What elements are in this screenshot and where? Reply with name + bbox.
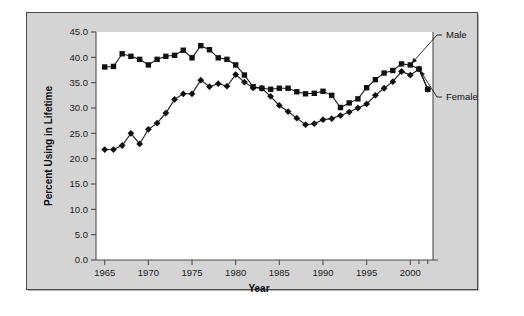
- data-point-male: [277, 86, 282, 91]
- data-point-male: [268, 87, 273, 92]
- x-tick-label: 1985: [269, 267, 290, 278]
- data-point-male: [329, 93, 334, 98]
- data-point-male: [303, 91, 308, 96]
- y-tick-label: 0.0: [75, 254, 88, 265]
- data-point-male: [294, 89, 299, 94]
- data-point-male: [346, 100, 351, 105]
- data-point-male: [146, 62, 151, 67]
- data-point-male: [216, 55, 221, 60]
- y-tick-label: 10.0: [70, 204, 89, 215]
- y-tick-label: 35.0: [70, 77, 89, 88]
- data-point-male: [233, 62, 238, 67]
- x-tick-label: 1975: [181, 267, 202, 278]
- data-point-male: [172, 53, 177, 58]
- data-point-male: [154, 57, 159, 62]
- data-point-male: [224, 57, 229, 62]
- x-tick-label: 2000: [400, 267, 421, 278]
- data-point-male: [189, 55, 194, 60]
- data-point-male: [163, 54, 168, 59]
- data-point-male: [285, 86, 290, 91]
- data-point-male: [181, 48, 186, 53]
- data-point-male: [364, 85, 369, 90]
- data-point-male: [102, 64, 107, 69]
- data-point-male: [355, 96, 360, 101]
- data-point-male: [207, 47, 212, 52]
- x-tick-label: 1980: [225, 267, 246, 278]
- y-tick-label: 25.0: [70, 128, 89, 139]
- y-tick-label: 30.0: [70, 102, 89, 113]
- y-axis-ticks: 0.05.010.015.020.025.030.035.040.045.0: [70, 26, 97, 265]
- y-axis-title: Percent Using in Lifetime: [43, 86, 54, 206]
- y-tick-label: 20.0: [70, 153, 89, 164]
- x-tick-label: 1970: [138, 267, 159, 278]
- series-label-female: Female: [446, 91, 478, 102]
- x-tick-label: 1990: [312, 267, 333, 278]
- x-tick-label: 1995: [356, 267, 377, 278]
- x-axis-title: Year: [248, 283, 269, 294]
- data-point-male: [373, 77, 378, 82]
- data-point-male: [111, 64, 116, 69]
- y-tick-label: 15.0: [70, 178, 89, 189]
- data-point-male: [312, 91, 317, 96]
- data-point-male: [390, 68, 395, 73]
- data-point-male: [242, 72, 247, 77]
- data-point-male: [320, 89, 325, 94]
- line-chart: 0.05.010.015.020.025.030.035.040.045.0 1…: [0, 0, 524, 316]
- data-point-male: [381, 70, 386, 75]
- data-point-male: [119, 51, 124, 56]
- data-point-male: [128, 54, 133, 59]
- data-point-male: [198, 43, 203, 48]
- figure-root: 0.05.010.015.020.025.030.035.040.045.0 1…: [0, 0, 524, 316]
- x-axis-ticks: 19651970197519801985199019952000: [94, 260, 428, 278]
- data-point-male: [399, 61, 404, 66]
- x-tick-label: 1965: [94, 267, 115, 278]
- series-label-male: Male: [446, 29, 467, 40]
- y-tick-label: 45.0: [70, 26, 89, 37]
- data-point-male: [338, 105, 343, 110]
- y-tick-label: 5.0: [75, 229, 88, 240]
- data-point-male: [137, 57, 142, 62]
- y-tick-label: 40.0: [70, 52, 89, 63]
